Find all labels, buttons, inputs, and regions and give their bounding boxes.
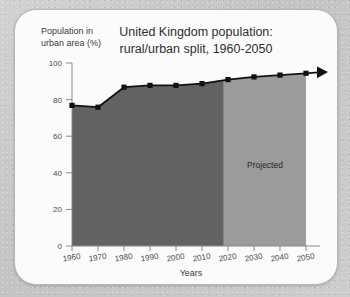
- data-point-2050: [303, 71, 308, 76]
- y-tick-label-0: 0: [58, 242, 63, 251]
- trend-arrowhead-icon: [317, 67, 328, 79]
- x-tick-label-2020: 2020: [218, 252, 238, 264]
- data-point-1970: [95, 105, 100, 110]
- data-point-2020: [225, 77, 230, 82]
- historic-area-fill: [72, 80, 224, 246]
- x-axis-title: Years: [180, 268, 203, 278]
- x-tick-label-1960: 1960: [62, 252, 82, 264]
- x-tick-label-1970: 1970: [88, 252, 108, 264]
- chart-card: United Kingdom population: rural/urban s…: [14, 9, 338, 285]
- population-area-chart: United Kingdom population: rural/urban s…: [15, 10, 337, 284]
- data-point-1990: [147, 83, 152, 88]
- x-axis-tick-labels: 1960 1970 1980 1990 2000 2010 2020 2030 …: [62, 252, 316, 264]
- data-point-1960: [69, 103, 74, 108]
- projected-annotation: Projected: [247, 160, 283, 170]
- x-tick-label-1980: 1980: [114, 252, 134, 264]
- x-axis-ticks: [72, 246, 306, 251]
- y-axis-title-line-1: Population in: [41, 26, 93, 36]
- x-tick-label-2010: 2010: [192, 252, 212, 264]
- data-point-2010: [199, 81, 204, 86]
- y-tick-label-40: 40: [53, 169, 62, 178]
- y-tick-label-80: 80: [53, 96, 62, 105]
- data-point-2040: [277, 73, 282, 78]
- chart-title-line-2: rural/urban split, 1960-2050: [120, 42, 273, 56]
- x-tick-label-2040: 2040: [270, 252, 290, 264]
- y-tick-label-20: 20: [53, 205, 62, 214]
- data-point-1980: [121, 85, 126, 90]
- x-tick-label-2000: 2000: [166, 252, 186, 264]
- data-point-2030: [251, 74, 256, 79]
- data-point-2000: [173, 83, 178, 88]
- x-tick-label-2030: 2030: [244, 252, 264, 264]
- y-axis-ticks: [66, 63, 72, 246]
- chart-title-line-1: United Kingdom population:: [119, 25, 273, 39]
- x-tick-label-1990: 1990: [140, 252, 160, 264]
- chart-area: United Kingdom population: rural/urban s…: [15, 10, 337, 284]
- y-tick-label-60: 60: [53, 132, 62, 141]
- y-axis-title-line-2: urban area (%): [41, 38, 101, 48]
- x-tick-label-2050: 2050: [296, 252, 316, 264]
- y-tick-label-100: 100: [49, 59, 63, 68]
